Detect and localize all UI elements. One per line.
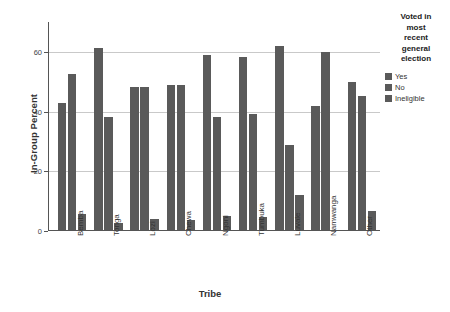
bar-group xyxy=(126,22,162,230)
bar-chart: In-Group Percent 0204060 BembaTongaLoziC… xyxy=(0,0,450,312)
legend-swatch-icon xyxy=(385,95,392,102)
x-axis-category-label: Other xyxy=(365,216,374,236)
y-axis-title: In-Group Percent xyxy=(28,54,39,214)
legend-title-line: recent xyxy=(385,33,447,44)
x-axis-category-label: Tonga xyxy=(112,214,121,236)
legend-item-label: No xyxy=(395,83,405,92)
y-axis-tick-label: 20 xyxy=(34,167,42,176)
y-axis-tick-label: 40 xyxy=(34,107,42,116)
y-axis-line xyxy=(48,22,49,231)
legend-swatch-icon xyxy=(385,73,392,80)
bar xyxy=(203,55,212,230)
bar xyxy=(167,85,176,230)
bar xyxy=(58,103,67,230)
tick-mark xyxy=(44,52,48,53)
legend-item[interactable]: Ineligible xyxy=(385,94,447,103)
tick-mark xyxy=(44,112,48,113)
x-axis-category-label: Lozi xyxy=(148,221,157,236)
x-axis-category-label: Luvale xyxy=(293,212,302,236)
legend-title-line: most xyxy=(385,23,447,34)
y-axis-tick-label: 60 xyxy=(34,47,42,56)
bar-group xyxy=(271,22,307,230)
legend-item-label: Yes xyxy=(395,72,407,81)
bar xyxy=(177,85,186,230)
legend-title: Voted in most recent general election xyxy=(385,12,447,65)
bar xyxy=(94,48,103,230)
legend-title-line: Voted in xyxy=(385,12,447,23)
bar xyxy=(130,87,139,230)
legend-title-line: general xyxy=(385,44,447,55)
bar xyxy=(213,117,222,230)
bar xyxy=(140,87,149,230)
legend-item[interactable]: No xyxy=(385,83,447,92)
tick-mark xyxy=(44,171,48,172)
bar xyxy=(239,57,248,230)
x-axis-category-label: Chewa xyxy=(184,211,193,236)
tick-mark xyxy=(44,231,48,232)
x-axis-category-label: Ngoni xyxy=(221,215,230,236)
x-axis-category-label: Tumbuka xyxy=(257,203,266,236)
legend-title-line: election xyxy=(385,54,447,65)
bar xyxy=(275,46,284,230)
bar xyxy=(348,82,357,230)
bar xyxy=(68,74,77,230)
bar xyxy=(311,106,320,231)
legend-items: YesNoIneligible xyxy=(385,72,447,103)
legend-swatch-icon xyxy=(385,84,392,91)
x-axis-category-label: Namwanga xyxy=(329,196,338,236)
y-axis-tick-label: 0 xyxy=(38,227,42,236)
bar-group xyxy=(199,22,235,230)
bar-group xyxy=(54,22,90,230)
bar xyxy=(358,96,367,230)
bar-group xyxy=(308,22,344,230)
bar-group xyxy=(90,22,126,230)
bar-group xyxy=(344,22,380,230)
legend-item[interactable]: Yes xyxy=(385,72,447,81)
legend: Voted in most recent general election Ye… xyxy=(385,12,447,105)
x-axis-title: Tribe xyxy=(40,288,380,299)
bar-group xyxy=(235,22,271,230)
bar-group xyxy=(163,22,199,230)
x-axis-category-label: Bemba xyxy=(76,211,85,236)
legend-item-label: Ineligible xyxy=(395,94,425,103)
